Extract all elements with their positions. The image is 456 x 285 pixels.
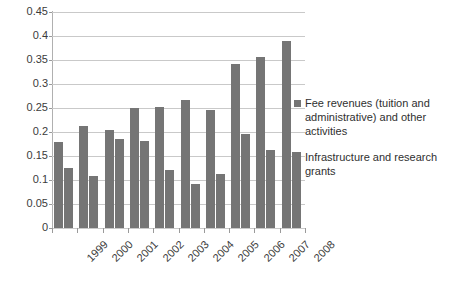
x-axis-tick-label: 2008 <box>312 238 338 264</box>
x-axis-tick-mark <box>52 228 53 233</box>
bar <box>256 57 265 228</box>
legend-label: Fee revenues (tuition and administrative… <box>305 96 454 138</box>
bar-group <box>128 12 153 228</box>
x-axis-tick-label: 2001 <box>134 238 160 264</box>
bar <box>105 130 114 228</box>
bar-group <box>153 12 178 228</box>
bar <box>140 141 149 228</box>
x-axis-tick-label: 2004 <box>210 238 236 264</box>
chart-screenshot: 00.050.10.150.20.250.30.350.40.45 199920… <box>0 0 456 285</box>
bar-group <box>103 12 128 228</box>
chart-legend: Fee revenues (tuition and administrative… <box>294 96 454 190</box>
x-axis-tick-label: 2006 <box>261 238 287 264</box>
x-axis-tick-mark <box>77 228 78 233</box>
y-axis-tick-label: 0.25 <box>4 102 48 113</box>
bar <box>89 176 98 228</box>
x-axis-tick-label: 2000 <box>109 238 135 264</box>
legend-entry[interactable]: Infrastructure and research grants <box>294 150 454 178</box>
legend-label: Infrastructure and research grants <box>305 150 454 178</box>
bar <box>54 142 63 228</box>
bar-group <box>179 12 204 228</box>
bar <box>191 184 200 228</box>
x-axis-tick-label: 2003 <box>185 238 211 264</box>
legend-entry[interactable]: Fee revenues (tuition and administrative… <box>294 96 454 138</box>
bar-group <box>77 12 102 228</box>
bar-group <box>204 12 229 228</box>
plot-area <box>52 12 305 228</box>
bar <box>231 64 240 228</box>
bar <box>115 139 124 228</box>
y-axis-tick-label: 0.35 <box>4 54 48 65</box>
x-axis-tick-mark <box>128 228 129 233</box>
square-marker-icon <box>294 100 301 107</box>
y-axis-tick-label: 0.2 <box>4 126 48 137</box>
bar <box>64 168 73 228</box>
y-axis-tick-label: 0.05 <box>4 198 48 209</box>
x-axis-tick-mark <box>204 228 205 233</box>
y-axis-tick-label: 0.45 <box>4 6 48 17</box>
x-axis-tick-label: 2002 <box>160 238 186 264</box>
bar <box>206 110 215 228</box>
x-axis-tick-mark <box>280 228 281 233</box>
x-axis-tick-label: 2005 <box>236 238 262 264</box>
y-axis-tick-labels: 00.050.10.150.20.250.30.350.40.45 <box>0 0 48 285</box>
x-axis-tick-mark <box>254 228 255 233</box>
square-marker-icon <box>294 154 301 161</box>
bar <box>216 174 225 228</box>
y-axis-tick-label: 0.15 <box>4 150 48 161</box>
y-axis-tick-label: 0.3 <box>4 78 48 89</box>
bar <box>266 150 275 228</box>
x-axis-tick-label: 2007 <box>286 238 312 264</box>
bar <box>165 170 174 228</box>
x-axis-tick-mark <box>305 228 306 233</box>
x-axis-tick-mark <box>229 228 230 233</box>
bar <box>282 41 291 228</box>
bar <box>241 134 250 228</box>
bar-group <box>254 12 279 228</box>
y-axis-tick-label: 0.1 <box>4 174 48 185</box>
bar <box>130 108 139 228</box>
x-axis-tick-mark <box>103 228 104 233</box>
x-axis-tick-mark <box>179 228 180 233</box>
bar <box>181 100 190 228</box>
bar <box>155 107 164 228</box>
x-axis-tick-mark <box>153 228 154 233</box>
x-axis-tick-label: 1999 <box>84 238 110 264</box>
y-axis-tick-label: 0 <box>4 222 48 233</box>
bar-group <box>52 12 77 228</box>
x-axis-tick-labels: 1999200020012002200320042005200620072008 <box>52 228 306 285</box>
y-axis-tick-label: 0.4 <box>4 30 48 41</box>
bar-group <box>229 12 254 228</box>
bar <box>79 126 88 228</box>
